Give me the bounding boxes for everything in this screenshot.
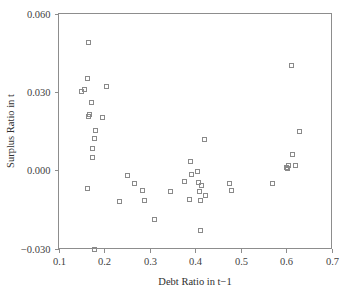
x-tick-label: 0.4 [189, 256, 203, 267]
data-point-group [80, 41, 302, 252]
data-point-marker [94, 129, 98, 133]
x-tick-label: 0.7 [326, 256, 339, 267]
data-point-marker [199, 199, 203, 203]
x-tick-label: 0.1 [53, 256, 66, 267]
x-tick-label: 0.6 [280, 256, 293, 267]
x-tick-label: 0.3 [144, 256, 157, 267]
data-point-marker [189, 160, 193, 164]
x-tick-label: 0.2 [98, 256, 111, 267]
data-point-marker [93, 137, 97, 141]
data-point-marker [101, 116, 105, 120]
data-point-marker [230, 189, 234, 193]
y-axis-title: Surplus Ratio in t [5, 94, 16, 168]
data-point-marker [294, 164, 298, 168]
scatter-plot-figure: 0.10.20.30.40.50.60.7 −0.0300.0000.0300.… [0, 0, 346, 297]
y-tick-label: −0.030 [21, 244, 51, 255]
data-point-marker [188, 198, 192, 202]
y-axis-ticks: −0.0300.0000.0300.060 [21, 9, 59, 255]
data-point-marker [204, 194, 208, 198]
data-point-marker [143, 199, 147, 203]
data-point-marker [133, 182, 137, 186]
plot-frame [59, 14, 332, 249]
data-point-marker [169, 190, 173, 194]
data-point-marker [141, 189, 145, 193]
y-tick-label: 0.000 [27, 165, 51, 176]
data-point-marker [86, 187, 90, 191]
y-tick-label: 0.060 [27, 9, 51, 20]
data-point-marker [183, 180, 187, 184]
data-point-marker [153, 218, 157, 222]
data-point-marker [87, 41, 91, 45]
data-point-marker [203, 138, 207, 142]
data-point-marker [190, 173, 194, 177]
y-tick-label: 0.030 [27, 87, 51, 98]
data-point-marker [126, 174, 130, 178]
data-point-marker [291, 153, 295, 157]
data-point-marker [90, 101, 94, 105]
x-axis-title: Debt Ratio in t−1 [158, 276, 231, 287]
data-point-marker [91, 147, 95, 151]
data-point-marker [199, 229, 203, 233]
data-point-marker [290, 64, 294, 68]
data-point-marker [298, 130, 302, 134]
plot-canvas: 0.10.20.30.40.50.60.7 −0.0300.0000.0300.… [0, 0, 346, 297]
data-point-marker [198, 190, 202, 194]
data-point-marker [271, 182, 275, 186]
x-tick-label: 0.5 [235, 256, 248, 267]
data-point-marker [105, 85, 109, 89]
data-point-marker [91, 156, 95, 160]
data-point-marker [118, 200, 122, 204]
data-point-marker [228, 182, 232, 186]
data-point-marker [86, 77, 90, 81]
data-point-marker [196, 170, 200, 174]
